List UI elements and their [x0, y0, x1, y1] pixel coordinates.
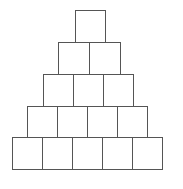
pyramid-cell	[89, 42, 121, 75]
pyramid-row-1	[75, 10, 106, 43]
pyramid-row-4	[27, 106, 148, 138]
pyramid-cell	[57, 106, 88, 138]
pyramid-cell	[132, 137, 163, 170]
pyramid-row-3	[43, 74, 134, 107]
number-pyramid	[0, 0, 183, 189]
pyramid-cell	[43, 74, 74, 107]
pyramid-cell	[73, 74, 104, 107]
pyramid-cell	[72, 137, 103, 170]
pyramid-cell	[42, 137, 73, 170]
pyramid-cell	[12, 137, 43, 170]
pyramid-cell	[75, 10, 106, 43]
pyramid-cell	[58, 42, 90, 75]
pyramid-cell	[27, 106, 58, 138]
pyramid-row-2	[58, 42, 121, 75]
pyramid-cell	[117, 106, 148, 138]
pyramid-cell	[103, 74, 134, 107]
pyramid-row-5	[12, 137, 163, 170]
pyramid-cell	[87, 106, 118, 138]
pyramid-cell	[102, 137, 133, 170]
